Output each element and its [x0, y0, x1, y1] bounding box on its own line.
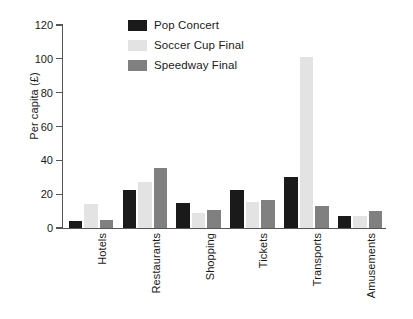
- y-axis-tick-label: 60: [5, 121, 53, 132]
- legend-label: Soccer Cup Final: [154, 39, 244, 51]
- y-axis-tick-label: 120: [5, 20, 53, 31]
- x-axis-tick-label: Tickets: [257, 233, 269, 268]
- bar[interactable]: [353, 216, 367, 228]
- legend-item[interactable]: Speedway Final: [128, 56, 244, 74]
- bar[interactable]: [230, 190, 244, 228]
- chart-legend: Pop ConcertSoccer Cup FinalSpeedway Fina…: [128, 16, 244, 76]
- x-axis-tick-label: Shopping: [204, 233, 216, 280]
- bar-group: [69, 25, 114, 228]
- y-axis-tick: [56, 227, 63, 228]
- bar[interactable]: [176, 203, 190, 228]
- bar[interactable]: [338, 216, 352, 228]
- y-axis-tick: [56, 126, 63, 127]
- bar[interactable]: [123, 190, 137, 228]
- bar[interactable]: [315, 206, 329, 228]
- bar-group: [338, 25, 383, 228]
- y-axis-tick-label: 0: [5, 223, 53, 234]
- bar[interactable]: [246, 202, 260, 228]
- legend-swatch-icon: [128, 40, 147, 51]
- bar[interactable]: [154, 168, 168, 228]
- legend-item[interactable]: Soccer Cup Final: [128, 36, 244, 54]
- y-axis-tick-label: 20: [5, 189, 53, 200]
- bar[interactable]: [284, 177, 298, 228]
- x-axis-tick-label: Hotels: [96, 233, 108, 265]
- y-axis-tick-label: 100: [5, 53, 53, 64]
- x-axis-line: [62, 228, 386, 229]
- legend-label: Speedway Final: [154, 59, 237, 71]
- y-axis-tick-label: 80: [5, 87, 53, 98]
- x-axis-tick-label: Amusements: [365, 233, 377, 298]
- y-axis-tick: [56, 24, 63, 25]
- bar[interactable]: [261, 200, 275, 228]
- legend-item[interactable]: Pop Concert: [128, 16, 244, 34]
- x-axis-tick-label: Transports: [311, 233, 323, 286]
- bar[interactable]: [300, 57, 314, 228]
- bar[interactable]: [369, 211, 383, 228]
- legend-label: Pop Concert: [154, 19, 219, 31]
- bar[interactable]: [69, 221, 83, 228]
- x-axis-tick-label: Restaurants: [150, 233, 162, 293]
- bar[interactable]: [84, 204, 98, 228]
- bar[interactable]: [138, 182, 152, 228]
- y-axis-tick-label: 40: [5, 155, 53, 166]
- y-axis-tick-labels: 020406080100120: [0, 0, 53, 319]
- legend-swatch-icon: [128, 20, 147, 31]
- bar[interactable]: [192, 213, 206, 228]
- y-axis-tick: [56, 92, 63, 93]
- legend-swatch-icon: [128, 60, 147, 71]
- bar-chart-figure: Per capita (£) 020406080100120 Pop Conce…: [0, 0, 413, 319]
- y-axis-tick: [56, 194, 63, 195]
- y-axis-tick: [56, 58, 63, 59]
- bar[interactable]: [100, 220, 114, 228]
- y-axis-tick: [56, 160, 63, 161]
- bar[interactable]: [207, 210, 221, 228]
- bar-group: [284, 25, 329, 228]
